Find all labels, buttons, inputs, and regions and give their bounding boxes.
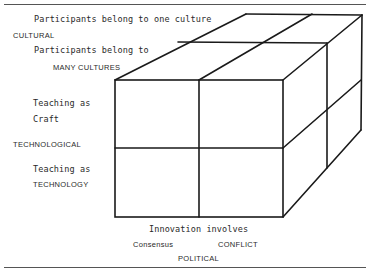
- label-craft-line1: Teaching as: [33, 98, 90, 108]
- right-bottom-edge: [283, 130, 361, 217]
- label-cultural-axis: CULTURAL: [13, 31, 54, 40]
- label-technology-line2: TECHNOLOGY: [33, 180, 89, 189]
- label-technology-line1: Teaching as: [33, 164, 90, 174]
- label-one-culture: Participants belong to one culture: [34, 14, 211, 24]
- label-many-cultures-line2: MANY CULTURES: [53, 63, 120, 72]
- label-political-axis: POLITICAL: [178, 254, 219, 263]
- label-technological-axis: TECHNOLOGICAL: [13, 140, 81, 149]
- label-craft-line2: Craft: [33, 114, 59, 124]
- label-many-cultures-line1: Participants belong to: [34, 45, 149, 55]
- top-middle-cross: [178, 42, 327, 43]
- label-innovation: Innovation involves: [149, 224, 248, 234]
- label-consensus: Consensus: [133, 240, 173, 249]
- label-conflict: CONFLICT: [218, 240, 258, 249]
- right-back-edge: [361, 15, 362, 130]
- right-middle-horizontal: [283, 80, 361, 148]
- top-back-edge: [246, 14, 362, 15]
